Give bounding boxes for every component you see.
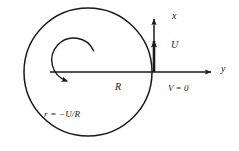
rotating-cylinder-diagram: x y U R V = 0 r = −U/R (0, 0, 239, 151)
rotation-rate-label: r = −U/R (44, 110, 80, 119)
radius-label: R (115, 82, 121, 92)
boundary-condition-label: V = 0 (168, 84, 188, 93)
y-axis-label: y (221, 64, 225, 74)
x-axis-label: x (172, 11, 176, 21)
diagram-canvas (0, 0, 239, 151)
rotation-direction-arc (52, 38, 94, 81)
velocity-label: U (171, 40, 178, 50)
